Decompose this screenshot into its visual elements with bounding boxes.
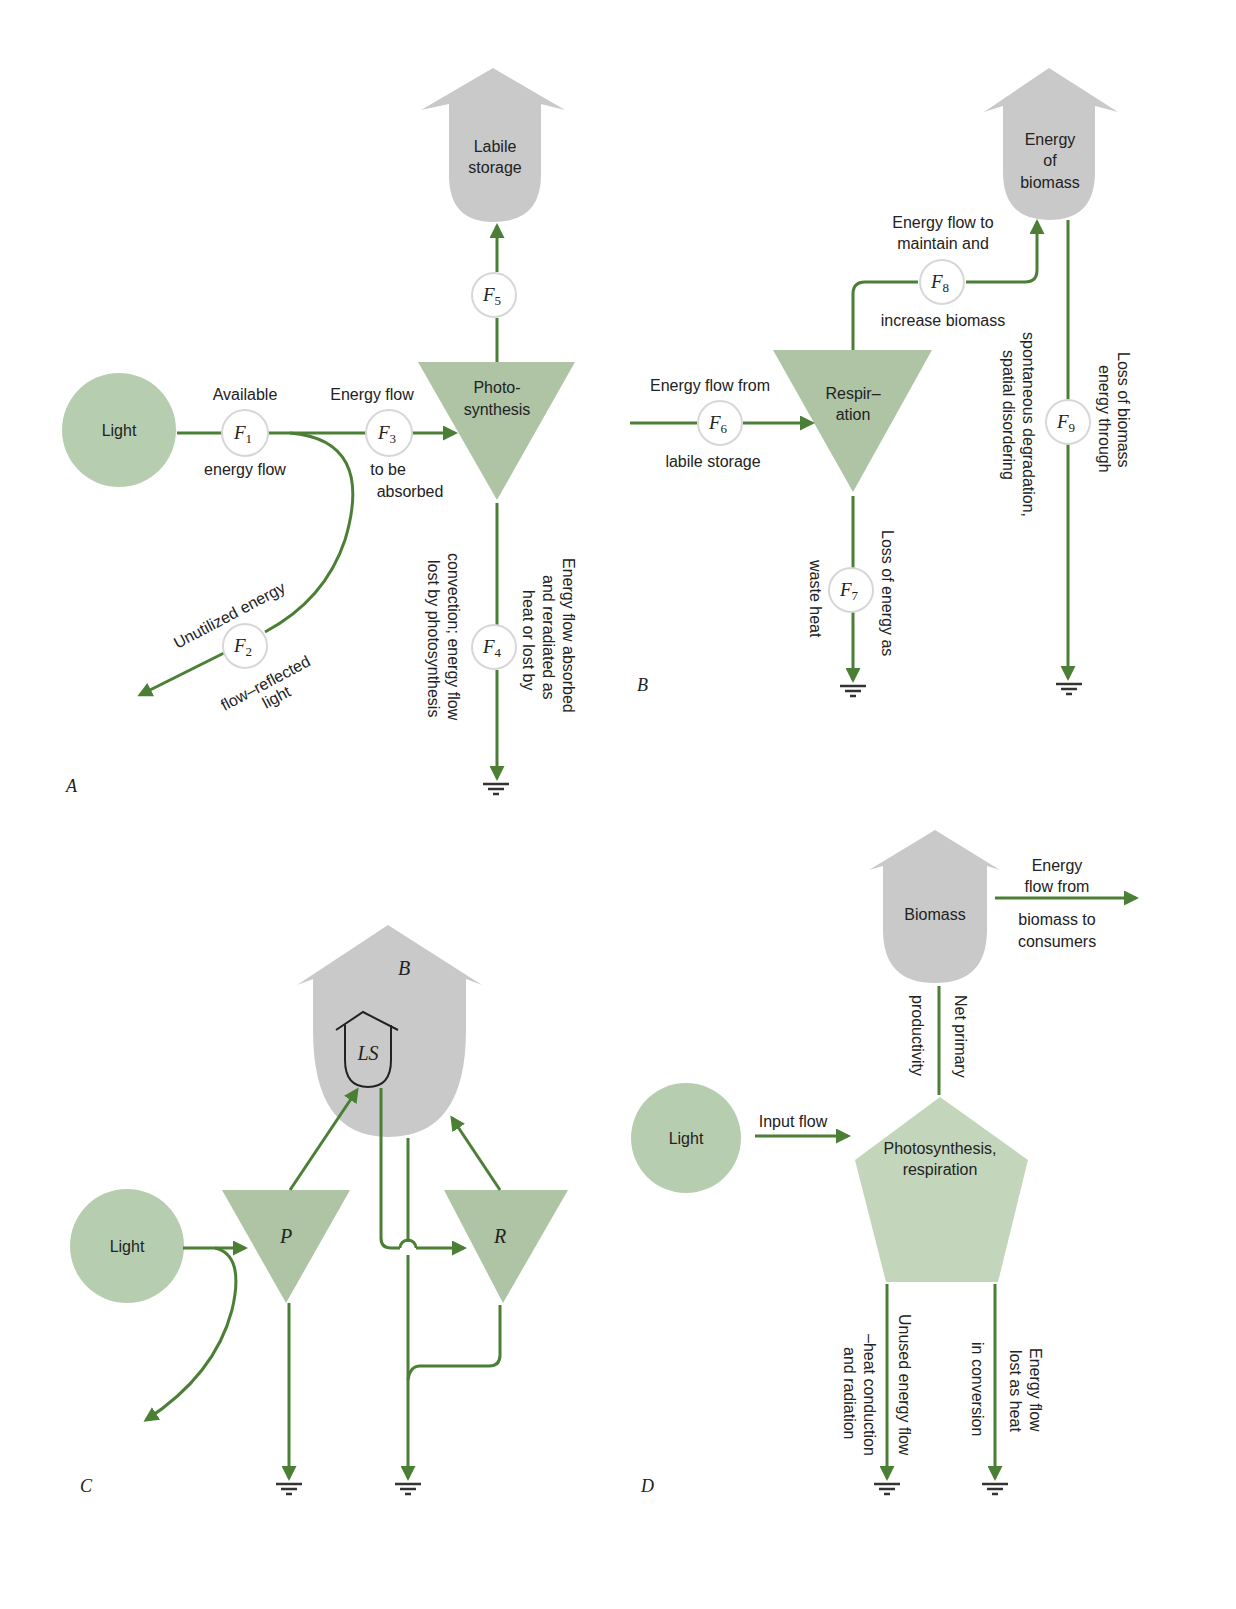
heat-loss-label-3: in conversion: [969, 1342, 986, 1436]
biomass-energy-tank: Energy of biomass: [984, 68, 1118, 220]
flow-line-r-to-sink: [408, 1305, 500, 1380]
heat-sink-icon: [276, 1484, 302, 1494]
heat-sink-icon: [483, 784, 509, 794]
heat-sink-icon: [874, 1484, 900, 1494]
f4-text-right-3: heat or lost by: [520, 590, 537, 691]
process-label-1: Respir–: [825, 385, 880, 402]
consumer-flow-label-2: flow from: [1025, 878, 1090, 895]
unused-label-1: Unused energy flow: [896, 1314, 913, 1456]
f6-label-below: labile storage: [665, 453, 760, 470]
panel-label-c: C: [80, 1476, 93, 1496]
flow-node-f6: F6: [698, 401, 742, 445]
f8-label-above-1: Energy flow to: [892, 214, 993, 231]
storage-inner-label: LS: [356, 1042, 378, 1064]
flow-line-f8: [966, 222, 1037, 282]
f7-text-left: waste heat: [807, 559, 824, 638]
f1-label-below: energy flow: [204, 461, 286, 478]
light-label: Light: [110, 1238, 145, 1255]
f3-label-below-1: to be: [370, 461, 406, 478]
f7-text-right: Loss of energy as: [879, 530, 896, 656]
flow-node-f8: F8: [920, 260, 964, 304]
f9-text-right-1: Loss of biomass: [1115, 352, 1132, 468]
f4-text-right-2: and reradiated as: [540, 575, 557, 700]
flow-node-f5: F5: [472, 273, 516, 317]
panel-label-b: B: [637, 675, 648, 695]
f9-text-left-2: spatial disordering: [1000, 350, 1017, 480]
labile-storage-tank: Labile storage: [421, 68, 565, 222]
npp-label-1: Net primary: [952, 995, 969, 1078]
flow-node-f2: F2: [223, 624, 267, 668]
panel-b: Energy of biomass Respir– ation F6 Energ…: [630, 68, 1132, 696]
storage-outer-label: B: [398, 957, 410, 979]
light-source-c: Light: [70, 1189, 184, 1303]
process-label-1: Photo-: [473, 379, 520, 396]
f4-text-right-1: Energy flow absorbed: [560, 558, 577, 713]
flow-node-f3: F3: [366, 410, 412, 456]
flow-line-f2-out: [140, 653, 224, 695]
process-label-1: Photosynthesis,: [884, 1140, 997, 1157]
panel-a: Light Labile storage Photo- synthesis: [62, 68, 577, 796]
npp-label-2: productivity: [909, 995, 926, 1076]
storage-label-3: biomass: [1020, 174, 1080, 191]
process-label-2: ation: [836, 406, 871, 423]
light-source-a: Light: [62, 373, 176, 487]
respiration-process: Respir– ation: [773, 350, 932, 492]
f4-text-left-2: lost by photosynthesis: [425, 560, 442, 717]
photosynthesis-process: Photo- synthesis: [418, 362, 575, 500]
storage-label: Biomass: [904, 906, 965, 923]
consumer-flow-label-1: Energy: [1032, 857, 1083, 874]
f9-text-right-2: energy through: [1096, 365, 1113, 473]
energy-flow-diagram: Light Labile storage Photo- synthesis: [0, 0, 1236, 1609]
f3-label-above: Energy flow: [330, 386, 414, 403]
storage-label-2: storage: [468, 159, 521, 176]
process-p-label: P: [279, 1225, 292, 1247]
consumer-flow-label-4: consumers: [1018, 933, 1096, 950]
unused-label-3: and radiation: [841, 1347, 858, 1440]
biomass-tank: Biomass: [869, 830, 1000, 983]
photosynthesis-respiration-process: Photosynthesis, respiration: [855, 1097, 1028, 1282]
heat-loss-label-1: Energy flow: [1027, 1348, 1044, 1432]
f6-label-above: Energy flow from: [650, 377, 770, 394]
flow-line-p-to-ls: [290, 1090, 357, 1190]
flow-node-f1: F1: [222, 410, 268, 456]
heat-loss-label-2: lost as heat: [1007, 1350, 1024, 1432]
biomass-tank-outer: B: [297, 925, 482, 1137]
storage-label-1: Labile: [474, 138, 517, 155]
light-label: Light: [102, 422, 137, 439]
flow-line-r-to-b: [452, 1118, 500, 1190]
light-label: Light: [669, 1130, 704, 1147]
light-source-d: Light: [631, 1083, 741, 1193]
f8-label-above-2: maintain and: [897, 235, 989, 252]
f4-text-left-1: convection; energy flow: [445, 553, 462, 721]
flow-node-f4: F4: [472, 625, 516, 669]
heat-sink-icon: [395, 1484, 421, 1494]
f9-text-left-1: spontaneous degradation,: [1020, 332, 1037, 517]
consumer-flow-label-3: biomass to: [1018, 911, 1095, 928]
process-label-2: synthesis: [464, 401, 531, 418]
f3-label-below-2: absorbed: [377, 483, 444, 500]
input-flow-label: Input flow: [759, 1113, 828, 1130]
flow-node-f9: F9: [1046, 400, 1090, 444]
panel-label-d: D: [640, 1476, 654, 1496]
heat-sink-icon: [1056, 684, 1082, 694]
panel-d: Biomass Energy flow from biomass to cons…: [631, 830, 1136, 1496]
unused-label-2: –heat conduction: [861, 1334, 878, 1456]
process-label-2: respiration: [903, 1161, 978, 1178]
process-r-label: R: [493, 1225, 506, 1247]
heat-sink-icon: [840, 686, 866, 696]
panel-label-a: A: [65, 776, 78, 796]
flow-node-f7: F7: [829, 568, 873, 612]
storage-label-1: Energy: [1025, 131, 1076, 148]
panel-c: B LS Light P R: [70, 925, 568, 1496]
storage-label-2: of: [1043, 152, 1057, 169]
heat-sink-icon: [982, 1484, 1008, 1494]
f1-label-above: Available: [213, 386, 278, 403]
f8-label-below: increase biomass: [881, 312, 1006, 329]
